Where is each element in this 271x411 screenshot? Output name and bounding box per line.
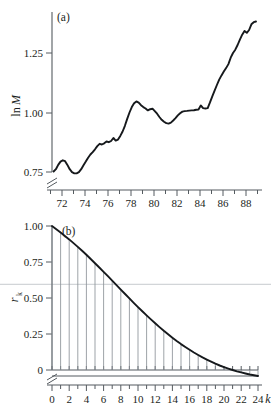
panel-a-tag: (a) (57, 11, 70, 24)
panel-a: 0.75 1.00 1.25 (0, 0, 271, 208)
panel-b-xticklabel-10: 20 (219, 393, 231, 405)
panel-a-xticklabel-4: 80 (149, 197, 161, 208)
panel-b-ylabel-sub-k: k (15, 292, 24, 296)
panel-b-xticks (52, 385, 258, 391)
panel-b-ylabel-r: r (7, 297, 21, 302)
panel-b-xticklabel-2: 4 (84, 393, 90, 405)
panel-b-xticklabel-12: 24 (253, 393, 265, 405)
panel-b-stems (52, 226, 258, 376)
panel-a-xticklabel-0: 72 (57, 197, 68, 208)
panel-a-curve (54, 22, 256, 174)
panel-b-yticklabel-0: 0 (38, 364, 44, 376)
panel-b-ylabel: r k (7, 292, 24, 302)
panel-a-xticklabel-8: 88 (241, 197, 253, 208)
panel-a-plot: 0.75 1.00 1.25 (0, 0, 271, 208)
panel-a-xticklabel-3: 78 (126, 197, 138, 208)
panel-a-ylabel-m: M (9, 94, 23, 106)
panel-b-yticklabel-3: 0.75 (24, 256, 44, 268)
panel-a-xticklabel-6: 84 (195, 197, 207, 208)
panel-b: 1.00 0.75 0.50 0.25 0 (0, 208, 271, 411)
figure-container: 0.75 1.00 1.25 (0, 0, 271, 411)
panel-b-xticklabel-6: 12 (150, 393, 161, 405)
panel-a-xticklabel-2: 76 (103, 197, 115, 208)
panel-b-xticklabel-8: 16 (184, 393, 196, 405)
panel-a-yticklabel-2: 1.25 (24, 47, 44, 59)
panel-a-axis-break (47, 178, 57, 188)
panel-a-xticklabel-7: 86 (218, 197, 230, 208)
panel-b-xticklabel-7: 14 (167, 393, 179, 405)
panel-a-yticklabel-1: 1.00 (24, 107, 44, 119)
panel-a-yticklabel-0: 0.75 (24, 166, 44, 178)
panel-b-yticklabel-1: 0.25 (24, 328, 44, 340)
panel-b-xticklabel-0: 0 (49, 393, 55, 405)
panel-b-plot: 1.00 0.75 0.50 0.25 0 (0, 208, 271, 411)
panel-a-xticklabel-1: 74 (80, 197, 92, 208)
panel-b-xticklabel-4: 8 (118, 393, 124, 405)
panel-b-xticklabel-11: 22 (236, 393, 247, 405)
panel-b-xlabel: k (265, 392, 271, 406)
panel-a-xticklabel-5: 82 (172, 197, 183, 208)
panel-a-xticks (51, 190, 258, 196)
panel-a-ylabel-ln: ln (9, 107, 23, 116)
panel-b-xticklabel-1: 2 (66, 393, 72, 405)
panel-b-xticklabel-9: 18 (201, 393, 213, 405)
panel-b-xticklabel-5: 10 (133, 393, 145, 405)
panel-b-yticklabel-4: 1.00 (24, 220, 44, 232)
panel-b-yticklabel-2: 0.50 (24, 292, 44, 304)
panel-b-xticklabel-3: 6 (101, 393, 107, 405)
panel-a-ylabel: ln M (9, 94, 23, 117)
